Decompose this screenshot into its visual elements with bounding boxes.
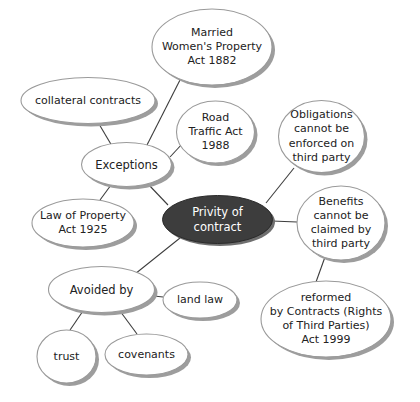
edge-avoided-by-to-trust bbox=[70, 311, 83, 330]
node-land-law[interactable]: land law bbox=[163, 282, 240, 321]
edge-exceptions-to-law-of-property-act-1925 bbox=[100, 185, 111, 200]
node-ellipse[interactable] bbox=[105, 334, 188, 375]
node-ellipse[interactable] bbox=[177, 101, 255, 163]
node-ellipse[interactable] bbox=[152, 9, 272, 85]
node-road-traffic-act-1988[interactable]: RoadTraffic Act1988 bbox=[177, 101, 258, 166]
node-ellipse[interactable] bbox=[279, 101, 365, 173]
node-ellipse[interactable] bbox=[297, 186, 385, 260]
edge-benefits-cannot-be-claimed-to-reformed-by-contracts-act-1999 bbox=[316, 257, 325, 282]
node-trust[interactable]: trust bbox=[37, 330, 99, 386]
nodes-group: Privity ofcontractExceptionscollateral c… bbox=[21, 9, 394, 386]
node-collateral-contracts[interactable]: collateral contracts bbox=[21, 78, 158, 127]
node-avoided-by[interactable]: Avoided by bbox=[49, 267, 158, 316]
edge-center-to-avoided-by bbox=[135, 238, 180, 274]
node-covenants[interactable]: covenants bbox=[105, 334, 191, 378]
node-ellipse[interactable] bbox=[163, 196, 273, 244]
node-ellipse[interactable] bbox=[82, 143, 172, 187]
edge-center-to-benefits-cannot-be-claimed bbox=[272, 221, 297, 222]
node-married-womens-property-act-1882[interactable]: MarriedWomen's PropertyAct 1882 bbox=[152, 9, 275, 88]
edge-avoided-by-to-covenants bbox=[120, 311, 137, 334]
edge-exceptions-to-collateral-contracts bbox=[99, 124, 112, 146]
node-ellipse[interactable] bbox=[49, 267, 155, 313]
node-ellipse[interactable] bbox=[163, 282, 237, 318]
node-ellipse[interactable] bbox=[37, 330, 96, 383]
node-ellipse[interactable] bbox=[32, 199, 134, 247]
node-reformed-by-contracts-act-1999[interactable]: reformedby Contracts (Rightsof Third Par… bbox=[261, 281, 394, 360]
edge-center-to-exceptions bbox=[148, 184, 168, 205]
edge-center-to-obligations-cannot-be-enforced bbox=[266, 168, 294, 203]
mind-map-canvas: Privity ofcontractExceptionscollateral c… bbox=[0, 0, 420, 402]
node-ellipse[interactable] bbox=[21, 78, 155, 124]
node-ellipse[interactable] bbox=[261, 281, 391, 357]
mind-map-svg: Privity ofcontractExceptionscollateral c… bbox=[0, 0, 420, 402]
node-exceptions[interactable]: Exceptions bbox=[82, 143, 175, 190]
node-law-of-property-act-1925[interactable]: Law of PropertyAct 1925 bbox=[32, 199, 137, 250]
node-obligations-cannot-be-enforced[interactable]: Obligationscannot beenforced onthird par… bbox=[279, 101, 368, 176]
node-benefits-cannot-be-claimed[interactable]: Benefitscannot beclaimed bythird party bbox=[297, 186, 388, 263]
